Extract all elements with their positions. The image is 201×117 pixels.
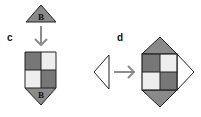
panel-d — [94, 37, 194, 107]
top-triangle-letter: B — [38, 12, 44, 22]
panel-c: B B — [25, 5, 56, 105]
diamond-figure — [142, 37, 194, 107]
left-triangle — [94, 55, 109, 89]
diagram: B B — [0, 0, 201, 117]
right-arrow — [114, 66, 134, 78]
bottom-triangle-letter: B — [38, 90, 44, 100]
down-arrow — [35, 26, 47, 45]
